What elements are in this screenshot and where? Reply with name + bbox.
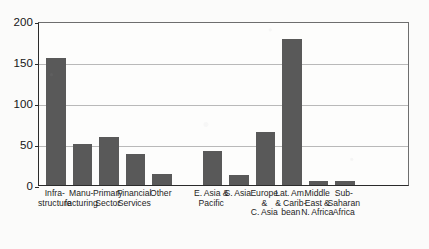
bar-chart: 050100150200 Infra-structureManu-facturi… (0, 0, 429, 249)
bar (282, 39, 302, 185)
y-tick-mark (35, 187, 39, 188)
bar (152, 174, 172, 185)
bar (335, 181, 355, 185)
y-axis-tick-label: 100 (14, 99, 34, 111)
x-axis-label: Sub-SaharanAfrica (326, 189, 362, 218)
y-axis-tick-label: 50 (20, 140, 33, 152)
x-axis-category-labels: Infra-structureManu-facturingPrimarySect… (38, 189, 409, 247)
y-axis-tick-label: 200 (14, 17, 34, 29)
bar (309, 181, 329, 185)
x-axis-label: Other (143, 189, 179, 199)
y-axis-tick-label: 150 (14, 58, 34, 70)
y-axis-tick-label: 0 (27, 181, 34, 193)
x-axis-label-line: Services (117, 199, 153, 209)
bar (99, 137, 119, 185)
bar (256, 132, 276, 185)
bar (229, 175, 249, 185)
bar (126, 154, 146, 185)
bar (203, 151, 223, 185)
bar (46, 58, 66, 185)
bars-layer (39, 23, 408, 185)
plot-area: 050100150200 (38, 22, 409, 186)
x-axis-label-line: Africa (326, 208, 362, 218)
x-axis-label-line: Other (143, 189, 179, 199)
bar (73, 144, 93, 185)
x-axis-label-line: Pacific (194, 199, 230, 209)
